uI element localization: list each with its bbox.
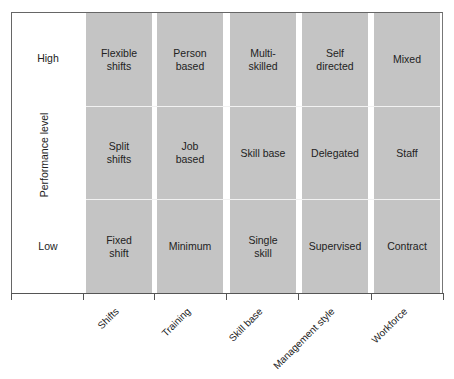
x-axis-line [11,293,444,294]
x-tick [11,293,12,300]
row-label-low: Low [28,240,68,252]
cell-training-low: Minimum [157,200,223,293]
cell-skill-base-mid: Skill base [230,107,296,199]
cell-management-style-low: Supervised [302,200,368,293]
cell-training-mid: Jobbased [157,107,223,199]
x-label-management-style: Management style [271,306,337,372]
cell-workforce-mid: Staff [374,107,440,199]
cell-training-high: Personbased [157,13,223,106]
row-label-high: High [28,52,68,64]
x-label-workforce: Workforce [369,306,409,346]
x-tick [371,293,372,300]
x-tick [226,293,227,300]
x-tick [154,293,155,300]
x-label-shifts: Shifts [95,306,120,331]
cell-workforce-low: Contract [374,200,440,293]
cell-management-style-mid: Delegated [302,107,368,199]
cell-shifts-high: Flexibleshifts [86,13,152,106]
x-label-training: Training [160,306,193,339]
x-tick [443,293,444,300]
cell-management-style-high: Selfdirected [302,13,368,106]
y-axis-label: Performance level [38,113,50,198]
cell-shifts-mid: Splitshifts [86,107,152,199]
x-tick [83,293,84,300]
cell-skill-base-low: Singleskill [230,200,296,293]
x-label-skill-base: Skill base [227,306,265,344]
cell-skill-base-high: Multi-skilled [230,13,296,106]
x-tick [298,293,299,300]
cell-workforce-high: Mixed [374,13,440,106]
cell-shifts-low: Fixedshift [86,200,152,293]
